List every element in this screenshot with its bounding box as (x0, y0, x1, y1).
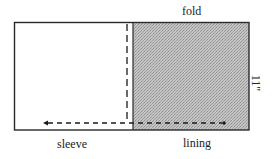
sleeve-label: sleeve (57, 137, 87, 151)
height-measure-label: 11" (249, 75, 263, 91)
lining-panel (133, 22, 249, 130)
diagram-canvas (0, 0, 278, 159)
fold-label: fold (182, 4, 201, 18)
arrowhead-icon (43, 121, 48, 126)
end-dot-icon (222, 121, 226, 125)
lining-label: lining (183, 136, 211, 150)
